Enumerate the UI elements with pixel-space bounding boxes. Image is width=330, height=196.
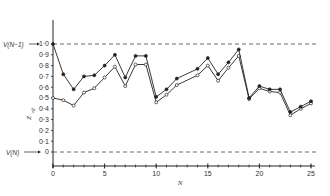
y-tick-label: 0·3 — [39, 116, 49, 123]
data-point — [103, 76, 106, 79]
reference-lines — [24, 42, 316, 153]
y-tick-label: 0·9 — [39, 51, 49, 58]
data-point — [196, 67, 199, 70]
data-point — [72, 104, 75, 107]
data-point — [299, 105, 302, 108]
data-point — [82, 91, 85, 94]
data-point — [175, 84, 178, 87]
y-tick-label: 1·0 — [39, 40, 49, 47]
data-point — [113, 53, 116, 56]
data-point — [62, 73, 65, 76]
y-tick-label: 0 — [45, 148, 49, 155]
data-point — [62, 99, 65, 102]
y-tick-label: 0·5 — [39, 94, 49, 101]
x-axis-title: N — [177, 179, 183, 187]
data-point — [52, 97, 55, 100]
data-point — [258, 85, 261, 88]
data-point — [134, 54, 137, 57]
data-point — [155, 101, 158, 104]
y-tick-label: 0·6 — [39, 84, 49, 91]
y-tick-label: 0·2 — [39, 127, 49, 134]
data-point — [103, 64, 106, 67]
svg-text:eff: eff — [30, 107, 35, 113]
data-point — [72, 88, 75, 91]
series-line — [53, 44, 311, 112]
x-tick-label: 15 — [204, 170, 212, 177]
data-point — [165, 93, 168, 96]
axes: 00·10·20·30·40·50·60·70·80·91·0051015202… — [39, 20, 315, 177]
y-tick-label: 0·8 — [39, 62, 49, 69]
data-point — [144, 54, 147, 57]
y-tick-label: 0·1 — [39, 138, 49, 145]
data-point — [82, 75, 85, 78]
data-point — [93, 74, 96, 77]
y-axis-title: Z eff — [25, 107, 35, 120]
data-point — [93, 87, 96, 90]
x-tick-label: 5 — [103, 170, 107, 177]
data-point — [310, 100, 313, 103]
x-tick-label: 10 — [152, 170, 160, 177]
y-tick-label: 0·7 — [39, 73, 49, 80]
x-tick-label: 0 — [51, 170, 55, 177]
series-open-markers — [52, 54, 313, 116]
data-point — [144, 63, 147, 66]
svg-text:Z: Z — [25, 116, 33, 120]
data-point — [217, 79, 220, 82]
data-point — [227, 66, 230, 69]
data-point — [124, 76, 127, 79]
data-point — [279, 88, 282, 91]
data-point — [206, 57, 209, 60]
data-point — [155, 95, 158, 98]
series-filled-markers — [52, 43, 313, 114]
data-point — [175, 77, 178, 80]
ref-label-upper: V(N−1) — [3, 41, 24, 49]
data-point — [217, 73, 220, 76]
chart: 00·10·20·30·40·50·60·70·80·91·0051015202… — [0, 0, 330, 196]
data-point — [248, 97, 251, 100]
y-tick-label: 0·4 — [39, 105, 49, 112]
ref-label-lower: V(N) — [6, 149, 19, 157]
data-point — [113, 65, 116, 68]
data-point — [237, 48, 240, 51]
x-tick-label: 20 — [256, 170, 264, 177]
data-point — [165, 88, 168, 91]
data-point — [134, 63, 137, 66]
data-point — [289, 114, 292, 117]
data-point — [227, 61, 230, 64]
data-point — [196, 74, 199, 77]
data-point — [268, 88, 271, 91]
x-tick-label: 25 — [307, 170, 315, 177]
data-point — [124, 85, 127, 88]
data-point — [289, 111, 292, 114]
series-line — [53, 56, 311, 115]
data-point — [52, 43, 55, 46]
data-point — [206, 64, 209, 67]
